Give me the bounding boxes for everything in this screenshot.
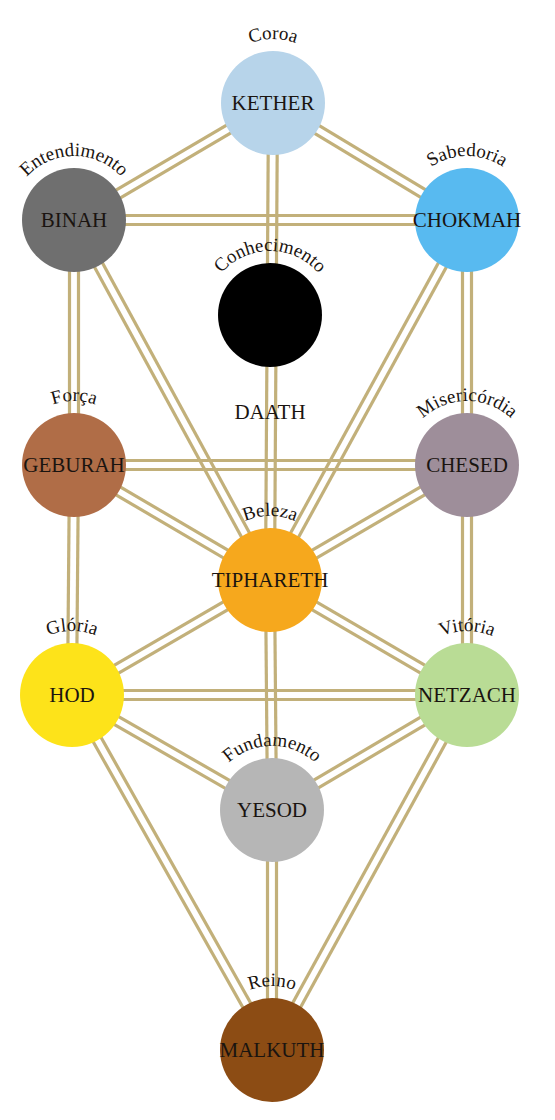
path-hod-netzach: [72, 691, 467, 700]
malkuth-name: MALKUTH: [220, 1038, 325, 1062]
path-geburah-chesed: [74, 461, 467, 470]
chokmah-name: CHOKMAH: [413, 208, 522, 232]
sephirah-netzach[interactable]: NETZACHVitória: [415, 614, 519, 747]
sephirah-malkuth[interactable]: MALKUTHReino: [220, 969, 325, 1102]
tree-of-life-diagram: KETHERCoroaBINAHEntendimentoCHOKMAHSabed…: [0, 0, 555, 1120]
binah-name: BINAH: [41, 208, 108, 232]
hod-meaning: Glória: [44, 614, 102, 639]
sephirah-kether[interactable]: KETHERCoroa: [221, 22, 325, 155]
sephirah-geburah[interactable]: GEBURAHForça: [22, 384, 126, 517]
geburah-name: GEBURAH: [23, 453, 125, 477]
malkuth-meaning: Reino: [245, 969, 299, 994]
geburah-meaning: Força: [48, 384, 100, 409]
path-binah-chokmah: [74, 216, 467, 225]
hod-name: HOD: [49, 683, 95, 707]
sephirah-binah[interactable]: BINAHEntendimento: [15, 139, 133, 272]
tree-of-life-canvas: KETHERCoroaBINAHEntendimentoCHOKMAHSabed…: [0, 0, 555, 1120]
netzach-name: NETZACH: [418, 683, 516, 707]
yesod-name: YESOD: [237, 798, 307, 822]
kether-name: KETHER: [232, 91, 315, 115]
chesed-name: CHESED: [426, 453, 508, 477]
sephirah-chokmah[interactable]: CHOKMAHSabedoria: [413, 139, 522, 272]
tiphareth-meaning: Beleza: [240, 499, 302, 525]
daath-circle[interactable]: [218, 263, 322, 367]
daath-name: DAATH: [234, 400, 305, 424]
tiphareth-name: TIPHARETH: [212, 568, 329, 592]
sephirah-yesod[interactable]: YESODFundamento: [218, 729, 326, 862]
sephirah-daath[interactable]: DAATHConhecimento: [209, 234, 331, 424]
sephirah-hod[interactable]: HODGlória: [20, 614, 124, 747]
chokmah-meaning: Sabedoria: [423, 139, 512, 171]
sephirah-chesed[interactable]: CHESEDMisericórdia: [413, 384, 523, 517]
kether-meaning: Coroa: [246, 22, 302, 47]
sephirah-tiphareth[interactable]: TIPHARETHBeleza: [212, 499, 329, 632]
netzach-meaning: Vitória: [436, 614, 499, 640]
